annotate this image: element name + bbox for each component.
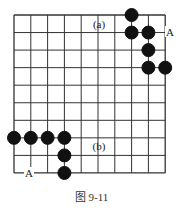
black-stone	[142, 26, 155, 39]
black-stone	[58, 131, 71, 144]
figure-caption: 图 9-11	[0, 188, 183, 204]
black-stone	[125, 26, 138, 39]
black-stone	[142, 61, 155, 74]
black-stone	[24, 131, 37, 144]
labels-layer: (a)A(b)A	[24, 18, 175, 179]
black-stone	[58, 149, 71, 162]
black-stone	[8, 131, 21, 144]
board-grid	[14, 15, 165, 173]
region-label: (a)	[93, 18, 106, 31]
region-label: (b)	[93, 140, 106, 153]
black-stone	[41, 131, 54, 144]
point-label-a: A	[25, 167, 33, 179]
go-board-diagram: (a)A(b)A	[0, 0, 183, 215]
stones-layer	[8, 9, 172, 180]
black-stone	[125, 9, 138, 22]
black-stone	[58, 166, 71, 179]
point-label-a: A	[166, 26, 174, 38]
black-stone	[142, 44, 155, 57]
black-stone	[159, 61, 172, 74]
